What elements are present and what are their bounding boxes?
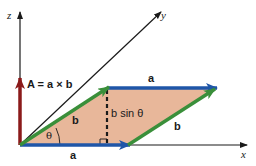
z-axis-label: z [6,9,12,21]
x-axis-label: x [240,148,246,160]
cross-product-diagram: z y x A = a × b a a b b θ b sin θ [0,0,256,166]
vector-a-top-label: a [148,72,155,84]
vector-b-right-label: b [174,120,181,132]
y-axis-label: y [160,9,166,21]
angle-label: θ [46,130,52,141]
vector-b-left-label: b [72,114,79,126]
height-label: b sin θ [111,107,143,119]
vector-a-bottom-label: a [70,149,77,161]
cross-product-label: A = a × b [27,78,73,90]
